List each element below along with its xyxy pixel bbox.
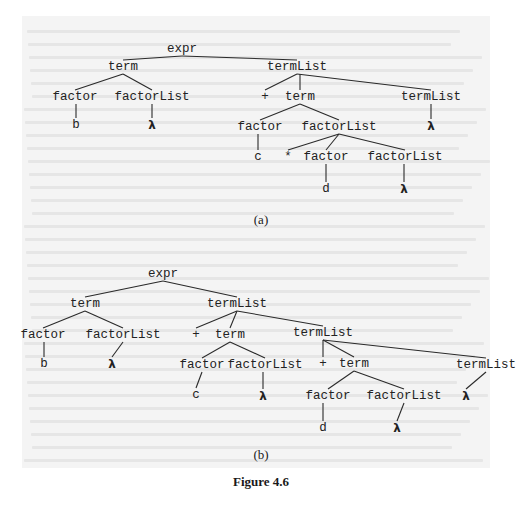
tree-node-termList: termList bbox=[401, 91, 461, 104]
tree-edge bbox=[123, 74, 152, 90]
tree-edge bbox=[230, 342, 265, 358]
tree-node-factorList: factorList bbox=[114, 91, 189, 104]
tree-node-factor: factor bbox=[52, 91, 97, 104]
tree-node-c: c bbox=[254, 151, 262, 164]
tree-edge bbox=[288, 134, 339, 150]
tree-edge bbox=[323, 340, 486, 358]
tree-edge bbox=[328, 371, 354, 389]
tree-node-factor: factor bbox=[20, 329, 65, 342]
tree-node-factorList: factorList bbox=[301, 121, 376, 134]
tree-node-lambda: λ bbox=[148, 119, 156, 131]
tree-node-star: * bbox=[284, 151, 292, 164]
subfigure-label-a: (a) bbox=[254, 212, 268, 228]
tree-node-d: d bbox=[322, 183, 330, 196]
subfigure-label-b: (b) bbox=[253, 447, 268, 463]
tree-edge bbox=[265, 74, 297, 90]
tree-node-lambda: λ bbox=[427, 120, 435, 132]
tree-node-lambda: λ bbox=[259, 390, 267, 402]
tree-node-factor: factor bbox=[237, 121, 282, 134]
tree-node-term: term bbox=[339, 358, 369, 371]
parse-tree-edges bbox=[0, 0, 522, 519]
tree-node-factorList: factorList bbox=[85, 329, 160, 342]
tree-node-termList: termList bbox=[207, 298, 267, 311]
tree-edge bbox=[85, 281, 163, 297]
tree-node-factor: factor bbox=[303, 151, 348, 164]
tree-node-termList: termList bbox=[456, 359, 516, 372]
figure-caption: Figure 4.6 bbox=[233, 474, 289, 490]
tree-edge bbox=[300, 104, 339, 120]
tree-edge bbox=[43, 311, 85, 328]
tree-node-plus: + bbox=[192, 329, 200, 342]
tree-edge bbox=[354, 371, 404, 389]
tree-node-factor: factor bbox=[179, 359, 224, 372]
tree-node-factorList: factorList bbox=[227, 359, 302, 372]
tree-node-plus: + bbox=[319, 358, 327, 371]
tree-node-expr: expr bbox=[148, 268, 178, 281]
tree-node-term: term bbox=[70, 298, 100, 311]
tree-node-termList: termList bbox=[293, 327, 353, 340]
tree-node-term: term bbox=[108, 61, 138, 74]
tree-edge bbox=[260, 104, 300, 120]
tree-node-lambda: λ bbox=[462, 390, 470, 402]
tree-edge bbox=[466, 372, 486, 389]
tree-edge bbox=[237, 311, 323, 326]
tree-node-lambda: λ bbox=[108, 358, 116, 370]
tree-node-expr: expr bbox=[167, 43, 197, 56]
tree-node-factorList: factorList bbox=[367, 151, 442, 164]
tree-node-plus: + bbox=[261, 91, 269, 104]
tree-node-term: term bbox=[285, 91, 315, 104]
tree-node-d: d bbox=[319, 422, 327, 435]
tree-node-factor: factor bbox=[305, 390, 350, 403]
tree-node-termList: termList bbox=[267, 61, 327, 74]
tree-edge bbox=[75, 74, 123, 90]
tree-edge bbox=[112, 342, 123, 357]
tree-node-c: c bbox=[192, 389, 200, 402]
tree-edge bbox=[297, 74, 431, 90]
tree-node-b: b bbox=[72, 119, 80, 132]
tree-edge bbox=[202, 342, 230, 358]
tree-node-factorList: factorList bbox=[366, 390, 441, 403]
tree-edge bbox=[339, 134, 405, 150]
tree-edge bbox=[163, 281, 237, 297]
tree-node-b: b bbox=[40, 358, 48, 371]
tree-edge bbox=[196, 372, 202, 388]
tree-edge bbox=[85, 311, 123, 328]
tree-node-lambda: λ bbox=[400, 183, 408, 195]
tree-edge bbox=[397, 403, 404, 421]
tree-node-lambda: λ bbox=[393, 422, 401, 434]
tree-node-term: term bbox=[215, 329, 245, 342]
